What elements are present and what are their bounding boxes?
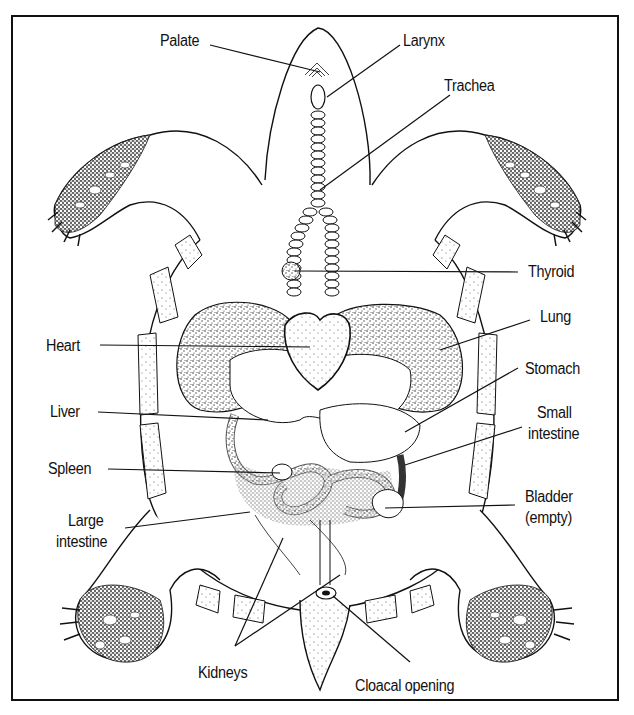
label-large-intestine-line2: intestine xyxy=(56,533,107,551)
label-palate: Palate xyxy=(160,32,199,50)
turtle-anatomy-illustration xyxy=(0,0,634,715)
label-small-intestine-line2: intestine xyxy=(528,425,579,443)
label-bladder-line1: Bladder xyxy=(525,488,573,506)
larynx-shape xyxy=(311,85,325,109)
label-thyroid: Thyroid xyxy=(528,263,574,281)
label-bladder-line2: (empty) xyxy=(525,509,572,527)
label-kidneys: Kidneys xyxy=(198,664,247,682)
label-small-intestine-line1: Small xyxy=(537,404,572,422)
spleen-shape xyxy=(272,464,292,480)
label-large-intestine-line1: Large xyxy=(68,512,103,530)
label-larynx: Larynx xyxy=(403,32,445,50)
label-liver: Liver xyxy=(50,403,80,421)
label-cloacal-opening: Cloacal opening xyxy=(355,677,454,695)
label-spleen: Spleen xyxy=(48,460,91,478)
label-heart: Heart xyxy=(46,337,80,355)
label-trachea: Trachea xyxy=(444,77,494,95)
label-lung: Lung xyxy=(540,308,571,326)
label-stomach: Stomach xyxy=(525,360,580,378)
